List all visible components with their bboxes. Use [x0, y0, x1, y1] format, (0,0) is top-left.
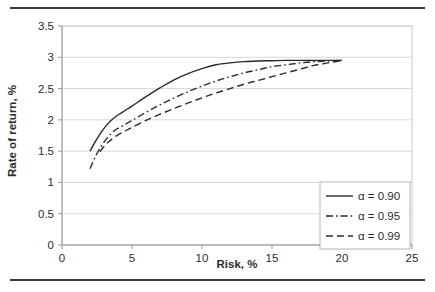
series-group: [90, 60, 342, 168]
line-chart: 00.511.522.533.5 0510152025 Risk, % Rate…: [0, 14, 435, 276]
y-tick-label: 0.5: [38, 208, 54, 220]
y-tick-label: 1: [48, 176, 54, 188]
y-tick-label: 2: [48, 114, 54, 126]
y-tick-label: 3.5: [38, 20, 54, 32]
x-tick-label: 20: [336, 252, 349, 264]
x-tick-label: 25: [406, 252, 419, 264]
series-line-1: [90, 60, 342, 168]
series-line-2: [100, 60, 342, 151]
y-tick-label: 0: [48, 239, 54, 251]
series-line-0: [90, 60, 342, 151]
x-tick-label: 0: [59, 252, 65, 264]
top-divider-rule: [10, 7, 425, 9]
figure: 00.511.522.533.5 0510152025 Risk, % Rate…: [0, 0, 435, 292]
legend-label-0: α = 0.90: [358, 190, 400, 202]
x-tick-label: 5: [129, 252, 135, 264]
y-tick-label: 2.5: [38, 83, 54, 95]
y-tick-label: 3: [48, 51, 54, 63]
x-axis-title: Risk, %: [217, 258, 258, 270]
legend-label-1: α = 0.95: [358, 210, 400, 222]
x-tick-label: 10: [196, 252, 209, 264]
legend-label-2: α = 0.99: [358, 230, 400, 242]
x-tick-label: 15: [266, 252, 279, 264]
y-axis-title: Rate of return, %: [6, 85, 18, 177]
y-tick-label: 1.5: [38, 145, 54, 157]
chart-container: 00.511.522.533.5 0510152025 Risk, % Rate…: [0, 14, 435, 276]
legend: α = 0.90α = 0.95α = 0.99: [320, 182, 410, 249]
y-tick-labels-group: 00.511.522.533.5: [38, 20, 54, 251]
bottom-divider-rule: [10, 279, 425, 281]
